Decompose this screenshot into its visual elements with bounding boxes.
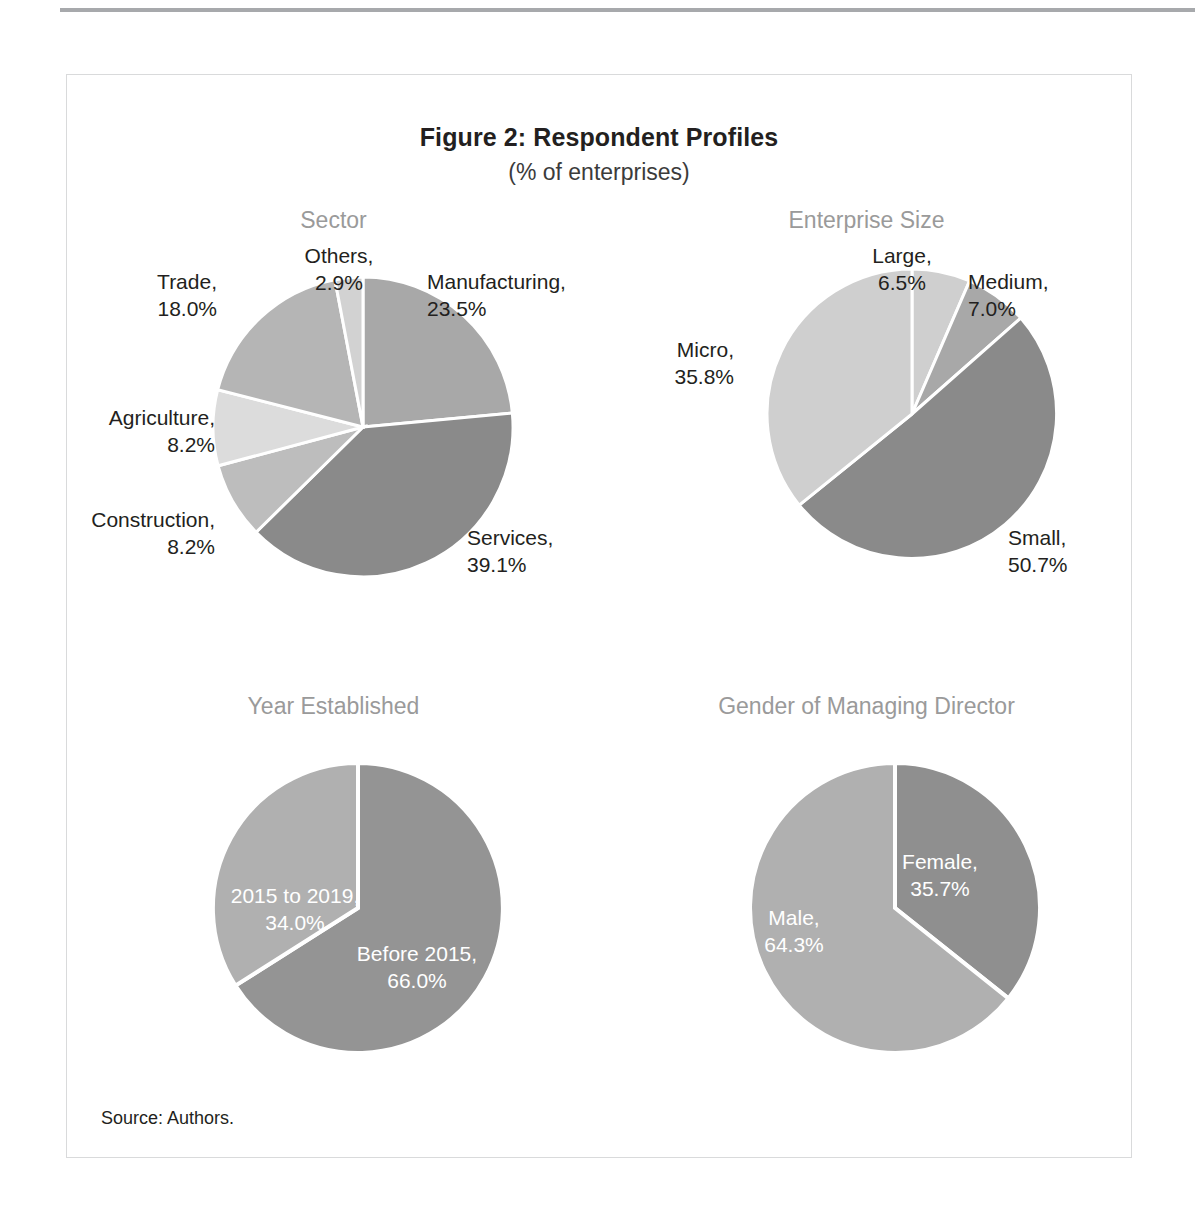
figure-container: Figure 2: Respondent Profiles (% of ente… (66, 74, 1132, 1158)
sector-label-services-value: 39.1% (467, 553, 527, 576)
panel-sector-title: Sector (67, 207, 600, 234)
year-label-before-2015-text: Before 2015, (357, 942, 477, 965)
enterprise-label-medium-text: Medium, (968, 270, 1049, 293)
sector-label-trade-text: Trade, (157, 270, 217, 293)
figure-title: Figure 2: Respondent Profiles (67, 123, 1131, 152)
enterprise-label-micro-text: Micro, (677, 338, 734, 361)
gender-label-female: Female, 35.7% (850, 849, 1030, 903)
sector-label-others-value: 2.9% (315, 271, 363, 294)
sector-label-construction-value: 8.2% (167, 535, 215, 558)
sector-label-manufacturing: Manufacturing, 23.5% (427, 269, 627, 323)
enterprise-label-large-value: 6.5% (878, 271, 926, 294)
year-label-before-2015-value: 66.0% (387, 969, 447, 992)
gender-label-female-value: 35.7% (910, 877, 970, 900)
sector-label-agriculture: Agriculture, 8.2% (25, 405, 215, 459)
gender-label-female-text: Female, (902, 850, 978, 873)
sector-label-services-text: Services, (467, 526, 553, 549)
enterprise-label-small-value: 50.7% (1008, 553, 1068, 576)
panel-enterprise-size: Enterprise Size Large, 6.5% Medium (600, 207, 1133, 677)
enterprise-label-small: Small, 50.7% (1008, 525, 1138, 579)
gender-label-male-value: 64.3% (764, 933, 824, 956)
enterprise-label-micro-value: 35.8% (674, 365, 734, 388)
sector-label-trade: Trade, 18.0% (87, 269, 217, 323)
year-label-2015-to-2019-value: 34.0% (265, 911, 325, 934)
panel-year-established: Year Established 2015 to 2019, 34.0% Bef… (67, 693, 600, 1113)
sector-label-construction-text: Construction, (91, 508, 215, 531)
enterprise-label-medium: Medium, 7.0% (968, 269, 1118, 323)
panel-year-established-title: Year Established (67, 693, 600, 720)
gender-label-male-text: Male, (768, 906, 819, 929)
year-label-2015-to-2019: 2015 to 2019, 34.0% (185, 883, 405, 937)
sector-label-others-text: Others, (305, 244, 374, 267)
sector-label-construction: Construction, 8.2% (17, 507, 215, 561)
enterprise-label-small-text: Small, (1008, 526, 1066, 549)
page-top-rule (60, 8, 1195, 12)
panel-sector: Sector Others (67, 207, 600, 677)
sector-label-manufacturing-value: 23.5% (427, 297, 487, 320)
year-label-2015-to-2019-text: 2015 to 2019, (231, 884, 359, 907)
enterprise-label-medium-value: 7.0% (968, 297, 1016, 320)
source-note: Source: Authors. (101, 1108, 234, 1129)
enterprise-label-large: Large, 6.5% (842, 243, 962, 297)
gender-label-male: Male, 64.3% (704, 905, 884, 959)
figure-subtitle: (% of enterprises) (67, 159, 1131, 186)
year-label-before-2015: Before 2015, 66.0% (317, 941, 517, 995)
panel-gender-of-managing-director: Gender of Managing Director Female, 35.7… (600, 693, 1133, 1113)
sector-label-others: Others, 2.9% (279, 243, 399, 297)
sector-label-agriculture-value: 8.2% (167, 433, 215, 456)
panel-enterprise-size-title: Enterprise Size (600, 207, 1133, 234)
enterprise-label-micro: Micro, 35.8% (614, 337, 734, 391)
enterprise-label-large-text: Large, (872, 244, 932, 267)
sector-label-agriculture-text: Agriculture, (109, 406, 215, 429)
sector-label-manufacturing-text: Manufacturing, (427, 270, 566, 293)
sector-label-trade-value: 18.0% (157, 297, 217, 320)
panel-gender-title: Gender of Managing Director (600, 693, 1133, 720)
